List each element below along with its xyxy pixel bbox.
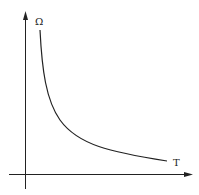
y-axis-label: Ω <box>35 16 43 27</box>
x-axis-label: T <box>173 157 180 168</box>
omega-t-curve <box>40 30 167 161</box>
omega-vs-t-diagram: Ω T <box>0 0 199 195</box>
y-axis-arrow-icon <box>23 11 28 20</box>
x-axis-arrow-icon <box>184 172 193 177</box>
